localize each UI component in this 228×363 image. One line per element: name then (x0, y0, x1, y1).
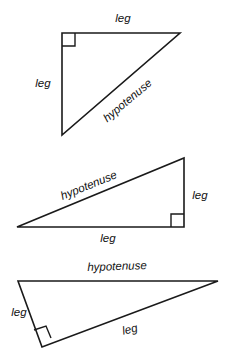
triangle-1-outline (62, 33, 180, 135)
triangle-2-bottom-leg-label: leg (100, 232, 116, 244)
triangle-1-left-leg-label: leg (35, 77, 51, 89)
triangle-3-hypotenuse-label: hypotenuse (87, 259, 147, 273)
triangle-1: leg leg hypotenuse (35, 12, 180, 135)
triangle-1-hypotenuse-label: hypotenuse (101, 77, 154, 124)
right-triangles-figure: leg leg hypotenuse hypotenuse leg leg hy… (0, 0, 228, 363)
triangle-2-right-angle-marker (171, 214, 184, 227)
triangle-3-outline (18, 281, 218, 347)
triangle-3-diagonal-leg-label: leg (121, 321, 139, 337)
diagram-canvas: leg leg hypotenuse hypotenuse leg leg hy… (0, 0, 228, 363)
triangle-3-left-leg-label: leg (11, 306, 27, 318)
triangle-3: hypotenuse leg leg (11, 259, 218, 347)
triangle-2: hypotenuse leg leg (17, 158, 208, 244)
triangle-1-right-angle-marker (62, 33, 75, 46)
triangle-1-top-leg-label: leg (115, 12, 131, 24)
triangle-2-right-leg-label: leg (192, 189, 208, 201)
triangle-2-outline (17, 158, 184, 227)
